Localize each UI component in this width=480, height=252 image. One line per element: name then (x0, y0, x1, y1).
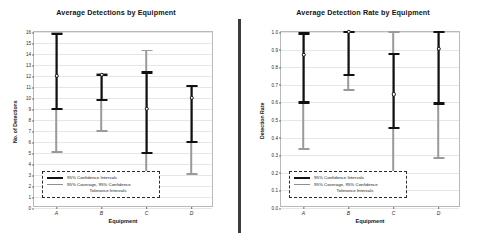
y-axis-tick-label: 8 (28, 118, 31, 123)
y-axis-tick-label: 16 (26, 30, 31, 35)
tolerance-interval-cap (96, 130, 107, 131)
y-axis-label: Detection Rate (259, 103, 265, 139)
confidence-interval-bar (100, 75, 103, 100)
legend-label-tolerance-1: 95% Coverage, 95% Confidence (67, 182, 131, 188)
gridline (281, 67, 459, 68)
y-axis-tick-label: 0.1 (272, 188, 278, 193)
chart-legend: 95% Confidence Intervals95% Coverage, 95… (42, 171, 160, 198)
y-axis-tick-label: 6 (28, 140, 31, 145)
y-axis-tick-label: 1 (28, 195, 31, 200)
y-axis-tick-label: 0.3 (272, 153, 278, 158)
confidence-interval-bar (145, 73, 148, 153)
y-axis-tick-label: 3 (28, 173, 31, 178)
gridline (34, 54, 212, 55)
legend-label-tolerance-2: Tolerance Intervals (61, 188, 155, 194)
legend-label-confidence: 95% Confidence Intervals (67, 175, 117, 181)
legend-item-confidence: 95% Confidence Intervals (294, 175, 402, 181)
gridline (34, 153, 212, 154)
confidence-interval-bar (347, 32, 350, 75)
x-axis-tick-label: D (437, 210, 441, 216)
y-axis-tick-label: 2 (28, 184, 31, 189)
confidence-swatch-icon (294, 177, 310, 179)
confidence-interval-cap (433, 102, 444, 105)
plot-area-left: 012345678910111213141516No. of Detection… (0, 0, 232, 252)
mean-marker (391, 92, 395, 96)
plot-frame: 012345678910111213141516No. of Detection… (33, 31, 213, 207)
y-axis-tick-label: 0.9 (272, 47, 278, 52)
gridline (281, 85, 459, 86)
y-axis-tick-label: 0.4 (272, 135, 278, 140)
tolerance-interval-cap (51, 151, 62, 152)
y-axis-tick-label: 4 (28, 162, 31, 167)
legend-item-tolerance: 95% Coverage, 95% Confidence (47, 182, 155, 188)
legend-item-confidence: 95% Confidence Intervals (47, 175, 155, 181)
x-axis-tick-label: B (100, 210, 103, 216)
confidence-interval-bar (392, 54, 395, 128)
confidence-interval-cap (298, 101, 309, 104)
gridline (34, 65, 212, 66)
mean-marker (301, 53, 305, 57)
gridline (281, 155, 459, 156)
x-axis-label: Equipment (34, 218, 212, 224)
confidence-interval-cap (186, 85, 197, 88)
tolerance-swatch-icon (47, 184, 63, 185)
y-axis-tick-label: 12 (26, 74, 31, 79)
gridline (281, 120, 459, 121)
x-axis-tick-label: B (347, 210, 350, 216)
y-axis-tick-label: 0 (28, 206, 31, 211)
y-axis-label: No. of Detections (12, 100, 18, 143)
gridline (281, 138, 459, 139)
x-axis-tick-label: D (190, 210, 194, 216)
tolerance-interval-cap (141, 50, 152, 51)
confidence-interval-bar (190, 86, 193, 142)
legend-label-tolerance-2: Tolerance Intervals (308, 188, 402, 194)
confidence-interval-bar (437, 32, 440, 103)
y-axis-tick-label: 0.5 (272, 118, 278, 123)
tolerance-interval-cap (298, 148, 309, 149)
y-axis-tick-label: 0.2 (272, 170, 278, 175)
y-axis-tick-label: 13 (26, 63, 31, 68)
y-axis-tick-label: 0.6 (272, 100, 278, 105)
confidence-interval-cap (388, 53, 399, 56)
mean-marker (189, 96, 193, 100)
confidence-interval-bar (55, 34, 58, 109)
y-axis-tick-label: 14 (26, 52, 31, 57)
confidence-interval-cap (433, 31, 444, 34)
gridline (34, 120, 212, 121)
gridline (34, 98, 212, 99)
y-axis-tick-label: 0.0 (272, 206, 278, 211)
y-axis-tick-label: 0.7 (272, 82, 278, 87)
confidence-interval-cap (51, 33, 62, 36)
dual-chart-board: Average Detections by Equipment 01234567… (0, 0, 480, 252)
confidence-interval-cap (51, 108, 62, 111)
mean-marker (54, 74, 58, 78)
chart-panel-detections: Average Detections by Equipment 01234567… (0, 0, 232, 252)
confidence-interval-cap (96, 99, 107, 102)
legend-label-confidence: 95% Confidence Intervals (314, 175, 364, 181)
mean-marker (144, 107, 148, 111)
x-axis-label: Equipment (281, 218, 459, 224)
gridline (34, 131, 212, 132)
gridline (34, 208, 212, 209)
confidence-interval-bar (302, 34, 305, 103)
y-axis-tick-label: 7 (28, 129, 31, 134)
chart-legend: 95% Confidence Intervals95% Coverage, 95… (289, 171, 407, 198)
confidence-interval-cap (343, 74, 354, 77)
mean-marker (346, 30, 350, 34)
y-axis-tick-label: 5 (28, 151, 31, 156)
legend-item-tolerance: 95% Coverage, 95% Confidence (294, 182, 402, 188)
x-axis-tick-label: A (302, 210, 305, 216)
y-axis-tick-label: 9 (28, 107, 31, 112)
confidence-interval-cap (388, 127, 399, 130)
plot-frame-2: 0.00.10.20.30.40.50.60.70.80.91.0Detecti… (280, 31, 460, 207)
confidence-interval-cap (141, 152, 152, 155)
y-axis-tick-label: 15 (26, 41, 31, 46)
tolerance-interval-cap (433, 157, 444, 158)
confidence-interval-cap (141, 71, 152, 74)
plot-area-right: 0.00.10.20.30.40.50.60.70.80.91.0Detecti… (247, 0, 479, 252)
chart-panel-detection-rate: Average Detection Rate by Equipment 0.00… (247, 0, 479, 252)
x-axis-tick-label: C (392, 210, 396, 216)
gridline (281, 208, 459, 209)
tolerance-interval-cap (186, 173, 197, 174)
confidence-interval-cap (298, 32, 309, 35)
